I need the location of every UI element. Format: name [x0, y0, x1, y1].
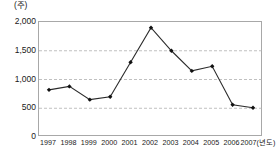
y-axis-tick-labels: 05001,0001,5002,000	[0, 0, 36, 159]
plot-svg	[39, 22, 263, 137]
x-axis-tick-label: 2005	[203, 138, 219, 147]
series-markers	[47, 26, 255, 110]
data-point-marker	[251, 105, 255, 109]
plot-area	[38, 21, 262, 136]
y-axis-tick-label: 2,000	[2, 17, 36, 25]
x-axis-tick-labels: 1997199819992000200120022003200420052006…	[0, 138, 279, 159]
x-axis-tick-label: 2000	[101, 138, 117, 147]
series-line	[49, 28, 253, 108]
x-axis-tick-label: 2007(년도)	[241, 138, 276, 147]
x-axis-tick-label: 1998	[60, 138, 76, 147]
data-point-marker	[230, 103, 234, 107]
y-axis-tick-label: 1,000	[2, 75, 36, 83]
data-point-marker	[210, 64, 214, 68]
x-axis-tick-label: 1999	[81, 138, 97, 147]
y-axis-tick-label: 1,500	[2, 46, 36, 54]
x-axis-unit-label: (년도)	[257, 138, 276, 147]
x-axis-tick-label: 2004	[183, 138, 199, 147]
x-axis-tick-label: 2002	[142, 138, 158, 147]
x-axis-tick-label: 2006	[224, 138, 240, 147]
line-chart: (주) 05001,0001,5002,000 1997199819992000…	[0, 0, 279, 159]
y-axis-tick-label: 500	[2, 103, 36, 111]
x-axis-tick-label: 2003	[162, 138, 178, 147]
data-point-marker	[47, 88, 51, 92]
series-polyline	[49, 28, 253, 108]
x-axis-tick-label: 1997	[40, 138, 56, 147]
x-axis-tick-label: 2001	[122, 138, 138, 147]
